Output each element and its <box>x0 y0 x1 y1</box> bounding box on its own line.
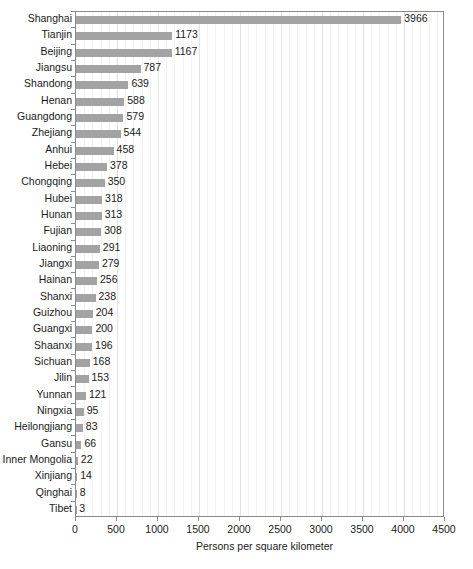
bar <box>76 310 93 318</box>
bar-value-label: 153 <box>92 372 110 383</box>
bar-value-label: 1173 <box>175 29 198 40</box>
y-tick-mark <box>71 256 75 257</box>
x-tick-label: 2000 <box>227 524 250 535</box>
bar-row <box>76 338 443 354</box>
x-tick-label: 4000 <box>391 524 414 535</box>
y-tick-mark <box>71 44 75 45</box>
y-tick-mark <box>71 272 75 273</box>
bar-row <box>76 404 443 420</box>
y-tick-mark <box>71 207 75 208</box>
y-tick-mark <box>71 354 75 355</box>
y-tick-mark <box>71 305 75 306</box>
bar <box>76 65 141 73</box>
y-tick-label: Jiangxi <box>0 258 72 269</box>
bar <box>76 359 90 367</box>
bar <box>76 506 77 514</box>
bar-row <box>76 61 443 77</box>
bar-row <box>76 241 443 257</box>
bar-value-label: 313 <box>105 209 123 220</box>
x-tick-label: 0 <box>72 524 78 535</box>
bar-row <box>76 453 443 469</box>
y-tick-mark <box>71 337 75 338</box>
bar <box>76 49 172 57</box>
y-tick-label: Guangxi <box>0 323 72 334</box>
bar-row <box>76 257 443 273</box>
x-tick-mark <box>280 517 281 521</box>
bar <box>76 179 105 187</box>
bar-value-label: 350 <box>108 176 126 187</box>
bar <box>76 424 83 432</box>
bar-row <box>76 371 443 387</box>
y-tick-label: Tianjin <box>0 29 72 40</box>
y-tick-mark <box>71 93 75 94</box>
x-axis-title-text: Persons per square kilometer <box>196 540 333 552</box>
y-tick-mark <box>71 142 75 143</box>
x-tick-label: 4500 <box>432 524 455 535</box>
y-tick-mark <box>71 370 75 371</box>
y-tick-mark <box>71 386 75 387</box>
y-tick-mark <box>71 288 75 289</box>
y-tick-mark <box>71 403 75 404</box>
bar <box>76 130 121 138</box>
y-tick-label: Shanghai <box>0 13 72 24</box>
bar-value-label: 204 <box>96 307 114 318</box>
bar <box>76 163 107 171</box>
bar-row <box>76 387 443 403</box>
bar-value-label: 83 <box>86 421 98 432</box>
y-tick-label: Jilin <box>0 372 72 383</box>
y-tick-label: Hunan <box>0 209 72 220</box>
y-tick-label: Ningxia <box>0 405 72 416</box>
y-tick-label: Hebei <box>0 160 72 171</box>
bar <box>76 114 123 122</box>
y-tick-mark <box>71 125 75 126</box>
bar <box>76 196 102 204</box>
bar-chart: ShanghaiTianjinBeijingJiangsuShandongHen… <box>0 0 473 569</box>
bar-row <box>76 322 443 338</box>
bar <box>76 375 89 383</box>
x-tick-label: 500 <box>107 524 125 535</box>
bar-value-label: 14 <box>80 470 92 481</box>
bar <box>76 294 96 302</box>
y-tick-mark <box>71 419 75 420</box>
bar <box>76 81 128 89</box>
x-tick-label: 3000 <box>309 524 332 535</box>
bar-value-label: 579 <box>126 111 144 122</box>
y-tick-label: Xinjiang <box>0 470 72 481</box>
bar-value-label: 8 <box>80 487 86 498</box>
x-tick-label: 1000 <box>145 524 168 535</box>
y-tick-mark <box>71 60 75 61</box>
bar-row <box>76 436 443 452</box>
bar-value-label: 238 <box>99 291 117 302</box>
bar-value-label: 256 <box>100 274 118 285</box>
y-tick-label: Guizhou <box>0 307 72 318</box>
bar-row <box>76 485 443 501</box>
y-tick-mark <box>71 468 75 469</box>
y-tick-label: Qinghai <box>0 487 72 498</box>
y-tick-mark <box>71 435 75 436</box>
bar-row <box>76 355 443 371</box>
x-tick-mark <box>444 517 445 521</box>
bar-value-label: 168 <box>93 356 111 367</box>
y-tick-mark <box>71 11 75 12</box>
x-tick-mark <box>403 517 404 521</box>
bar-value-label: 378 <box>110 160 128 171</box>
y-tick-label: Sichuan <box>0 356 72 367</box>
y-tick-label: Heilongjiang <box>0 421 72 432</box>
y-tick-label: Yunnan <box>0 389 72 400</box>
bar-value-label: 787 <box>144 62 162 73</box>
y-tick-label: Beijing <box>0 46 72 57</box>
bar-row <box>76 175 443 191</box>
x-axis-title: Persons per square kilometer <box>0 540 473 552</box>
y-tick-mark <box>71 223 75 224</box>
y-tick-mark <box>71 158 75 159</box>
bar-row <box>76 469 443 485</box>
bar-row <box>76 273 443 289</box>
bar-row <box>76 45 443 61</box>
y-tick-label: Shandong <box>0 78 72 89</box>
bar-row <box>76 208 443 224</box>
y-tick-mark <box>71 240 75 241</box>
y-tick-mark <box>71 452 75 453</box>
bar-value-label: 200 <box>95 323 113 334</box>
bar-value-label: 66 <box>84 438 96 449</box>
bar <box>76 490 77 498</box>
